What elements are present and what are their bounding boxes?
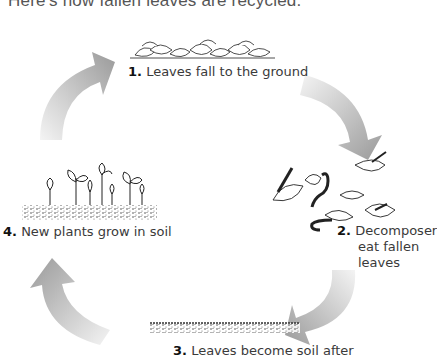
step-4-label: 4. New plants grow in soil xyxy=(3,224,172,240)
step-3-label: 3. Leaves become soil after xyxy=(173,343,354,359)
step-2-label: 2. Decomposer eat fallen leaves xyxy=(337,223,437,271)
new-plants-illustration xyxy=(22,163,157,220)
step-4-number: 4. xyxy=(3,224,17,239)
step-1-number: 1. xyxy=(128,64,142,79)
soil-illustration xyxy=(150,323,300,333)
step-2-text-line2: eat fallen xyxy=(337,239,437,255)
step-4-text: New plants grow in soil xyxy=(21,224,172,239)
arrow-to-step-3 xyxy=(285,270,355,345)
arrow-to-step-2 xyxy=(300,75,382,160)
step-2-number: 2. xyxy=(337,223,351,238)
step-3-number: 3. xyxy=(173,343,187,358)
step-3-text: Leaves become soil after xyxy=(191,343,354,358)
step-2-text: Decomposer xyxy=(355,223,437,238)
arrow-to-step-4 xyxy=(30,258,110,345)
step-1-label: 1. Leaves fall to the ground xyxy=(128,64,308,80)
fallen-leaves-illustration xyxy=(130,40,275,58)
decomposers-illustration xyxy=(273,152,395,230)
step-1-text: Leaves fall to the ground xyxy=(146,64,308,79)
step-2-text-line3: leaves xyxy=(337,255,437,271)
arrow-to-step-1 xyxy=(40,52,115,140)
